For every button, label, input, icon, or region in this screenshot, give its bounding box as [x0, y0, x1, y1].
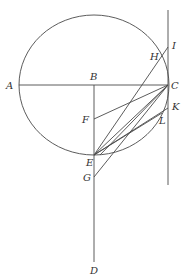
line-EI	[94, 47, 168, 155]
label-B: B	[89, 71, 97, 82]
label-F: F	[81, 114, 90, 125]
line-EC	[94, 85, 168, 155]
label-E: E	[85, 157, 94, 168]
label-L: L	[158, 115, 166, 126]
label-D: D	[89, 265, 98, 276]
line-EL	[94, 113, 162, 155]
label-K: K	[171, 101, 180, 112]
label-G: G	[83, 172, 91, 183]
line-FC	[94, 85, 168, 119]
label-H: H	[149, 51, 159, 62]
label-I: I	[171, 40, 177, 51]
geometry-diagram: A B C D E F G H I K L	[0, 0, 183, 278]
line-GC	[94, 85, 168, 177]
label-A: A	[5, 80, 13, 91]
diagram-svg: A B C D E F G H I K L	[0, 0, 183, 278]
label-C: C	[171, 80, 179, 91]
